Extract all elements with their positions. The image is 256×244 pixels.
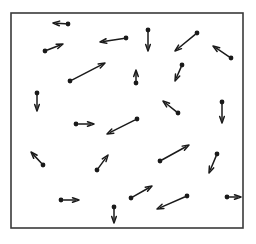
vector-origin-dot (74, 122, 79, 127)
vector-origin-dot (66, 22, 71, 27)
vector-origin-dot (41, 163, 46, 168)
vector-origin-dot (220, 100, 225, 105)
vector-origin-dot (195, 31, 200, 36)
vector-origin-dot (215, 152, 220, 157)
vector-origin-dot (59, 198, 64, 203)
vector-origin-dot (225, 195, 230, 200)
arrow-shaft (57, 23, 66, 24)
vector-origin-dot (124, 36, 129, 41)
vector-origin-dot (158, 159, 163, 164)
vector-origin-dot (185, 194, 190, 199)
vector-origin-dot (35, 91, 40, 96)
vector-origin-dot (180, 63, 185, 68)
vector-origin-dot (112, 205, 117, 210)
figure-background (0, 0, 256, 244)
vector-origin-dot (135, 117, 140, 122)
vector-origin-dot (134, 81, 139, 86)
vector-field-canvas (0, 0, 256, 244)
vector-origin-dot (229, 56, 234, 61)
vector-origin-dot (68, 79, 73, 84)
vector-origin-dot (129, 196, 134, 201)
vector-origin-dot (176, 111, 181, 116)
vector-origin-dot (95, 168, 100, 173)
vector-origin-dot (146, 28, 151, 33)
vector-origin-dot (43, 49, 48, 54)
vector-field-figure (0, 0, 256, 244)
